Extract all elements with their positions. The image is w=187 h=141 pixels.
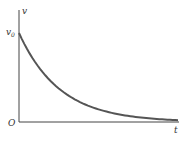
y0-label: v0 xyxy=(6,27,15,38)
origin-label: O xyxy=(8,118,16,128)
decay-chart: v v0 O t xyxy=(0,0,187,141)
y-axis-label: v xyxy=(22,6,27,16)
decay-curve xyxy=(19,33,178,120)
x-axis-label: t xyxy=(174,125,178,135)
